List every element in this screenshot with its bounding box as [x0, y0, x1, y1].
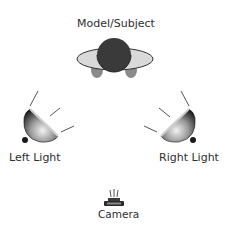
- person-top-view-icon: [77, 38, 153, 78]
- subject-label: Model/Subject: [64, 17, 168, 30]
- camera-icon: [104, 189, 124, 206]
- left-light-label: Left Light: [9, 151, 61, 164]
- right-light-label: Right Light: [159, 151, 219, 164]
- diagram-canvas: [0, 0, 231, 235]
- lighting-setup-diagram: Model/Subject Left Light Right Light Cam…: [0, 0, 231, 235]
- left-light-icon: [22, 91, 74, 143]
- camera-label: Camera: [98, 208, 139, 221]
- right-light-icon: [144, 91, 196, 143]
